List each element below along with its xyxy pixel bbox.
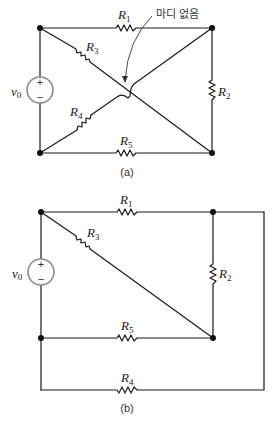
minus-sign-a: − — [37, 91, 43, 103]
circuit-a: + − v0 R1 R2 R3 R4 R5 마디 없음 (a) — [11, 7, 230, 178]
resistor-r5-b — [41, 335, 213, 341]
label-r4-a: R4 — [69, 104, 83, 121]
minus-sign-b: − — [38, 273, 44, 285]
resistor-r1-b — [41, 209, 264, 215]
node-b-top-left — [38, 209, 44, 215]
caption-b: (b) — [120, 402, 133, 414]
node-b-top-right — [210, 209, 216, 215]
resistor-r1-a — [40, 25, 212, 31]
arrowhead-icon — [122, 76, 128, 83]
label-r3-a: R3 — [85, 39, 99, 56]
plus-sign-b: + — [38, 258, 44, 270]
label-r4-b: R4 — [120, 370, 134, 387]
label-r5-b: R5 — [120, 318, 134, 335]
resistor-r5-a — [40, 150, 212, 156]
node-a-bottom-right — [209, 150, 215, 156]
source-label-a: v0 — [11, 84, 22, 100]
resistor-r2-b — [210, 212, 216, 338]
node-a-top-left — [37, 25, 43, 31]
label-r5-a: R5 — [119, 133, 133, 150]
node-a-bottom-left — [37, 150, 43, 156]
no-node-annotation: 마디 없음 — [156, 8, 200, 21]
label-r1-a: R1 — [117, 7, 130, 24]
node-a-top-right — [209, 25, 215, 31]
circuit-b: + − v0 R1 R2 R3 R5 R4 (b) — [12, 192, 264, 414]
resistor-r2-a — [209, 28, 215, 153]
source-label-b: v0 — [12, 266, 23, 282]
label-r1-b: R1 — [119, 192, 132, 209]
label-r3-b: R3 — [86, 225, 100, 242]
label-r2-b: R2 — [218, 266, 231, 283]
node-b-bottom-left — [38, 335, 44, 341]
label-r2-a: R2 — [217, 84, 230, 101]
resistor-r4-b — [41, 212, 264, 393]
node-b-bottom-right — [210, 335, 216, 341]
plus-sign-a: + — [37, 76, 43, 88]
circuit-figure: + − v0 R1 R2 R3 R4 R5 마디 없음 (a) + — [0, 0, 280, 427]
caption-a: (a) — [120, 166, 133, 178]
